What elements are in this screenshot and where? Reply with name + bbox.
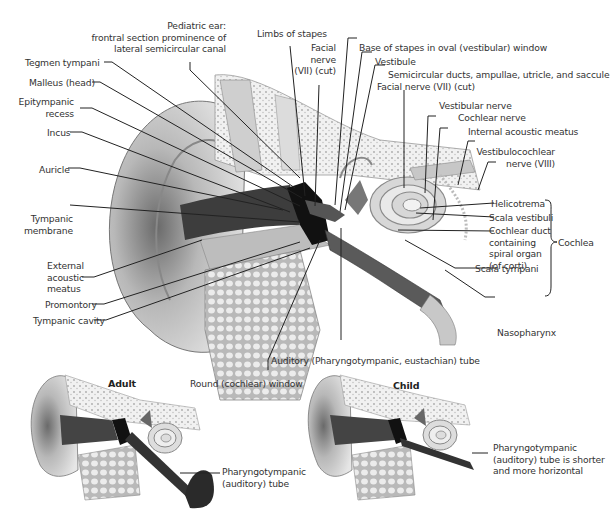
label-round-window: Round (cochlear) window (190, 378, 303, 390)
label-facial-nerve-upper: Facial nerve (VII) (cut) (294, 42, 336, 77)
label-epitympanic-recess: Epitympanic recess (19, 96, 74, 119)
label-scala-vestibuli: Scala vestibuli (489, 212, 553, 224)
label-facial-nerve-lower: Facial nerve (VII) (cut) (377, 81, 475, 93)
label-limbs-of-stapes: Limbs of stapes (257, 28, 327, 40)
label-vestibular-nerve: Vestibular nerve (439, 100, 512, 112)
label-external-acoustic-meatus: External acoustic meatus (47, 260, 84, 295)
adult-ear-drawing (31, 375, 214, 508)
label-tegmen-tympani: Tegmen tympani (25, 57, 100, 69)
adult-inset-title: Adult (108, 378, 136, 390)
label-scala-tympani: Scala tympani (475, 263, 539, 275)
label-auricle: Auricle (39, 164, 70, 176)
label-nasopharynx: Nasopharynx (497, 327, 556, 339)
label-promontory: Promontory (45, 299, 97, 311)
label-semicircular-ducts: Semicircular ducts, ampullae, utricle, a… (388, 69, 609, 81)
main-ear-drawing (109, 75, 480, 400)
label-incus: Incus (47, 127, 70, 139)
label-child-pharyngotympanic-tube: Pharyngotympanic (auditory) tube is shor… (493, 442, 605, 477)
label-internal-acoustic-meatus: Internal acoustic meatus (468, 126, 578, 138)
label-auditory-tube: Auditory (Pharyngotympanic, eustachian) … (271, 355, 480, 367)
label-pediatric-ear: Pediatric ear: frontral section prominen… (91, 20, 226, 55)
label-tympanic-membrane: Tympanic membrane (24, 213, 73, 236)
label-vestibulocochlear-nerve: Vestibulocochlear nerve (VIII) (476, 146, 555, 169)
label-cochlear-nerve: Cochlear nerve (458, 112, 526, 124)
label-malleus-head: Malleus (head) (29, 77, 95, 89)
label-base-of-stapes: Base of stapes in oval (vestibular) wind… (359, 42, 547, 54)
label-adult-pharyngotympanic-tube: Pharyngotympanic (auditory) tube (222, 466, 306, 489)
child-ear-drawing (308, 375, 474, 500)
label-tympanic-cavity: Tympanic cavity (33, 315, 105, 327)
label-cochlea: Cochlea (558, 237, 594, 249)
label-helicotrema: Helicotrema (491, 198, 545, 210)
child-inset-title: Child (393, 380, 419, 392)
label-vestibule: Vestibule (375, 56, 416, 68)
